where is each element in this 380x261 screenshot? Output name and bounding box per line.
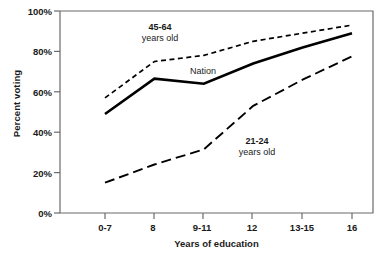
series-label-nation-line1: Nation xyxy=(174,66,232,77)
x-axis-ticks xyxy=(105,213,352,219)
y-axis-ticks xyxy=(54,11,60,213)
series-label-21-24-line2: years old xyxy=(221,147,293,158)
series-label-45-64-line1: 45-64 xyxy=(124,22,196,33)
series-label-45-64-line2: years old xyxy=(124,33,196,44)
series-label-45-64: 45-64 years old xyxy=(124,22,196,44)
chart-container: Percent voting Years of education 100% 8… xyxy=(0,0,380,261)
series-label-21-24: 21-24 years old xyxy=(221,136,293,158)
series-label-nation: Nation xyxy=(174,66,232,77)
series-label-21-24-line1: 21-24 xyxy=(221,136,293,147)
